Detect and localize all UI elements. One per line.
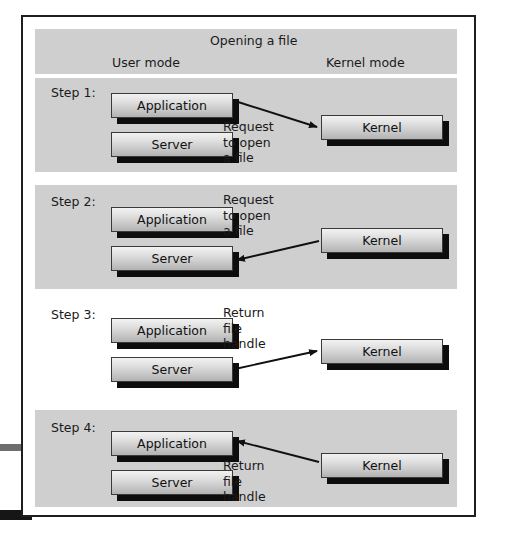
- step-4-server-box: Server: [111, 470, 233, 495]
- step-2-kernel-label: Kernel: [362, 233, 401, 248]
- figure-frame: Opening a file User mode Kernel mode Ste…: [21, 15, 476, 517]
- step-4-caption-line-2: file: [223, 474, 266, 490]
- step-4-arrow-caption: Return file handle: [223, 458, 266, 505]
- step-3-caption-line-3: handle: [223, 336, 266, 352]
- step-2-server-box: Server: [111, 246, 233, 271]
- step-2-arrow-caption: Request to open a file: [223, 192, 274, 239]
- step-2-label: Step 2:: [51, 194, 96, 209]
- step-4-caption-line-3: handle: [223, 489, 266, 505]
- step-3-server-label: Server: [152, 362, 193, 377]
- step-1-kernel-label: Kernel: [362, 120, 401, 135]
- step-1-caption-line-1: Request: [223, 119, 274, 135]
- step-2-server-label: Server: [152, 251, 193, 266]
- step-2-caption-line-3: a file: [223, 223, 274, 239]
- step-4-caption-line-1: Return: [223, 458, 266, 474]
- step-3-application-box: Application: [111, 318, 233, 343]
- step-1-kernel-box: Kernel: [321, 115, 443, 140]
- step-1-arrow-caption: Request to open a file: [223, 119, 274, 166]
- step-1-application-label: Application: [137, 98, 207, 113]
- step-1-application-box: Application: [111, 93, 233, 118]
- step-4-kernel-label: Kernel: [362, 458, 401, 473]
- step-1-server-box: Server: [111, 132, 233, 157]
- step-2-caption-line-2: to open: [223, 208, 274, 224]
- step-4-kernel-box: Kernel: [321, 453, 443, 478]
- step-3-caption-line-1: Return: [223, 305, 266, 321]
- step-3-arrow: [235, 351, 317, 369]
- step-3-application-label: Application: [137, 323, 207, 338]
- step-3-arrow-caption: Return file handle: [223, 305, 266, 352]
- step-2-caption-line-1: Request: [223, 192, 274, 208]
- column-label-user-mode: User mode: [112, 55, 180, 70]
- step-3-server-box: Server: [111, 357, 233, 382]
- step-1-caption-line-2: to open: [223, 135, 274, 151]
- step-4-server-label: Server: [152, 475, 193, 490]
- step-3-kernel-label: Kernel: [362, 344, 401, 359]
- step-3-label: Step 3:: [51, 307, 96, 322]
- step-2-application-box: Application: [111, 207, 233, 232]
- step-4-application-box: Application: [111, 431, 233, 456]
- diagram-title: Opening a file: [210, 33, 297, 48]
- step-1-label: Step 1:: [51, 85, 96, 100]
- step-1-caption-line-3: a file: [223, 150, 274, 166]
- step-3-caption-line-2: file: [223, 321, 266, 337]
- step-3-kernel-box: Kernel: [321, 339, 443, 364]
- step-2-application-label: Application: [137, 212, 207, 227]
- column-label-kernel-mode: Kernel mode: [326, 55, 405, 70]
- step-1-server-label: Server: [152, 137, 193, 152]
- step-4-application-label: Application: [137, 436, 207, 451]
- step-2-kernel-box: Kernel: [321, 228, 443, 253]
- step-4-label: Step 4:: [51, 420, 96, 435]
